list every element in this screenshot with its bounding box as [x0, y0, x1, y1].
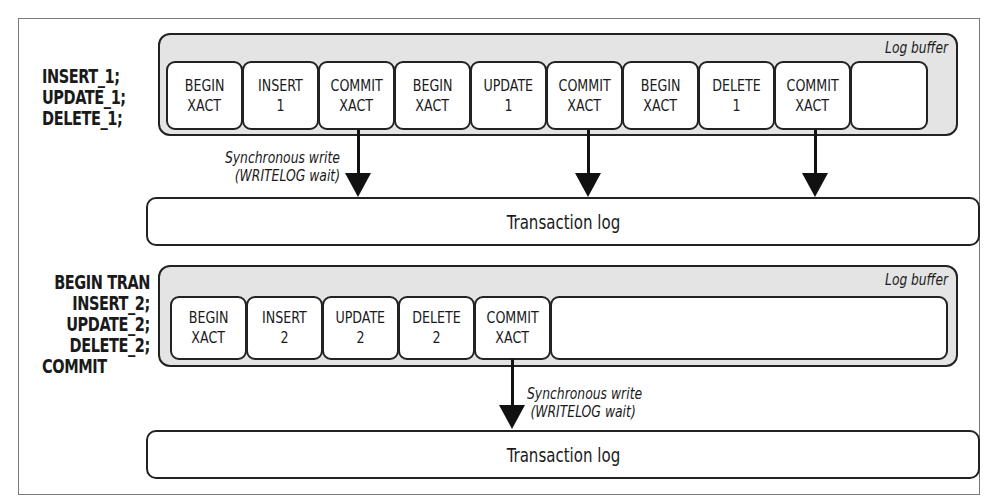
log-record-commit-xact: COMMITXACT: [318, 61, 395, 130]
log-record-begin-xact: BEGINXACT: [622, 61, 699, 130]
statement: UPDATE_2;: [42, 314, 150, 335]
log-buffer-label: Log buffer: [885, 270, 948, 289]
log-buffer-cells-top: BEGINXACT INSERT1 COMMITXACT BEGINXACT U…: [166, 61, 927, 130]
log-record-insert: INSERT2: [246, 296, 323, 360]
log-record-update: UPDATE2: [322, 296, 399, 360]
log-record-empty: [850, 61, 928, 130]
log-record-commit-xact: COMMITXACT: [546, 61, 623, 130]
log-record-insert: INSERT1: [242, 61, 319, 130]
transaction-log-bottom: Transaction log: [146, 430, 980, 479]
statement: INSERT_2;: [42, 293, 150, 314]
statement: DELETE_2;: [42, 335, 150, 356]
log-record-delete: DELETE1: [698, 61, 775, 130]
statement: INSERT_1;: [42, 66, 126, 87]
log-record-empty: [550, 296, 948, 360]
statement: DELETE_1;: [42, 108, 126, 129]
log-record-update: UPDATE1: [470, 61, 547, 130]
log-buffer-cells-bottom: BEGINXACT INSERT2 UPDATE2 DELETE2 COMMIT…: [170, 296, 947, 360]
statement: UPDATE_1;: [42, 87, 126, 108]
explicit-transaction-statements: BEGIN TRAN INSERT_2; UPDATE_2; DELETE_2;…: [42, 272, 150, 377]
statement: BEGIN TRAN: [42, 272, 150, 293]
log-record-commit-xact: COMMITXACT: [474, 296, 551, 360]
synchronous-write-note: Synchronous write (WRITELOG wait): [527, 385, 642, 421]
statement: COMMIT: [42, 356, 150, 377]
synchronous-write-note: Synchronous write (WRITELOG wait): [220, 149, 340, 185]
log-record-begin-xact: BEGINXACT: [394, 61, 471, 130]
log-buffer-label: Log buffer: [885, 38, 948, 57]
log-record-begin-xact: BEGINXACT: [170, 296, 247, 360]
log-record-commit-xact: COMMITXACT: [774, 61, 851, 130]
transaction-log-top: Transaction log: [146, 197, 980, 246]
log-record-delete: DELETE2: [398, 296, 475, 360]
autocommit-statements: INSERT_1; UPDATE_1; DELETE_1;: [42, 66, 126, 129]
log-record-begin-xact: BEGINXACT: [166, 61, 243, 130]
